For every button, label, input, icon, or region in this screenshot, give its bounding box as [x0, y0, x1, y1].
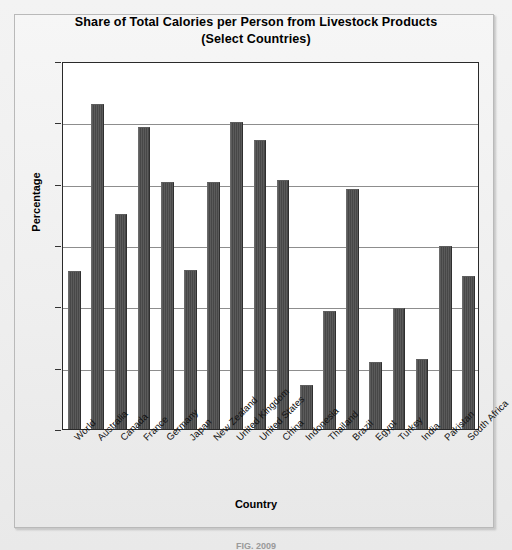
bar-pakistan: [439, 246, 452, 429]
plot-area: [62, 62, 479, 430]
bar-new-zealand: [207, 182, 220, 429]
bar-japan: [184, 270, 197, 429]
y-tick-mark-5: [55, 369, 61, 370]
y-axis-title: Percentage: [30, 142, 42, 262]
bar-france: [138, 127, 151, 429]
bar-egypt: [369, 362, 382, 429]
bar-brazil: [346, 189, 359, 429]
bar-united-states: [254, 140, 267, 429]
bar-united-kingdom: [230, 122, 243, 429]
bar-world: [68, 271, 81, 429]
x-axis-title: Country: [0, 498, 512, 510]
bar-germany: [161, 182, 174, 429]
chart-screenshot: Share of Total Calories per Person from …: [0, 0, 512, 550]
y-tick-mark-0: [55, 430, 61, 431]
bar-canada: [115, 214, 128, 429]
y-tick-mark-25: [55, 123, 61, 124]
chart-title-line2: (Select Countries): [0, 31, 512, 48]
gridline-25: [63, 124, 478, 125]
gridline-20: [63, 186, 478, 187]
y-tick-mark-20: [55, 185, 61, 186]
footer-note: FIG. 2009: [0, 541, 512, 550]
chart-title-line1: Share of Total Calories per Person from …: [75, 15, 437, 29]
y-tick-mark-10: [55, 307, 61, 308]
bar-australia: [91, 104, 104, 429]
y-tick-mark-15: [55, 246, 61, 247]
chart-title: Share of Total Calories per Person from …: [0, 14, 512, 48]
y-tick-mark-30: [55, 62, 61, 63]
bar-turkey: [393, 308, 406, 429]
bar-south-africa: [462, 276, 475, 429]
